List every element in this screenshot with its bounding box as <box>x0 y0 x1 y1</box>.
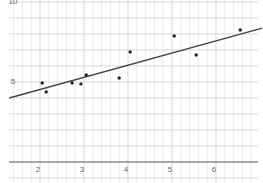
x-tick-label: 6 <box>212 165 217 174</box>
data-point <box>41 81 44 84</box>
x-tick-label: 4 <box>124 165 129 174</box>
data-point <box>195 53 198 56</box>
trend-line <box>9 28 262 98</box>
x-tick-label: 5 <box>168 165 173 174</box>
data-point <box>85 73 88 76</box>
data-point <box>44 90 47 93</box>
y-tick-label: 10 <box>9 0 18 6</box>
data-point <box>239 28 242 31</box>
x-tick-label: 3 <box>80 165 85 174</box>
y-tick-label: 5 <box>11 77 16 86</box>
data-point <box>129 50 132 53</box>
data-point <box>79 82 82 85</box>
regression-line <box>9 28 262 98</box>
data-point <box>173 34 176 37</box>
data-point <box>118 76 121 79</box>
data-point <box>70 81 73 84</box>
scatter-chart: 23456510 <box>0 0 263 183</box>
x-tick-label: 2 <box>36 165 41 174</box>
